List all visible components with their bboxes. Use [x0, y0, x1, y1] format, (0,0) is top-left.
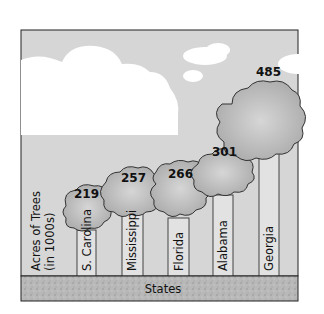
value-georgia: 485	[256, 65, 281, 79]
y-axis-label-line-2: (in 1000s)	[43, 213, 57, 271]
label-florida: Florida	[172, 232, 186, 271]
tree-planting-chart: S. Carolina Mississippi Florida Alabama …	[0, 0, 324, 314]
value-s-carolina: 219	[74, 187, 99, 201]
value-florida: 266	[168, 167, 193, 181]
label-s-carolina: S. Carolina	[80, 209, 94, 271]
cloud-right	[278, 54, 318, 74]
x-axis-label: States	[145, 282, 181, 296]
label-georgia: Georgia	[262, 226, 276, 271]
y-axis-label-line-1: Acres of Trees	[29, 191, 43, 271]
value-mississippi: 257	[121, 171, 146, 185]
label-alabama: Alabama	[216, 220, 230, 271]
label-mississippi: Mississippi	[125, 210, 139, 271]
value-alabama: 301	[212, 145, 237, 159]
